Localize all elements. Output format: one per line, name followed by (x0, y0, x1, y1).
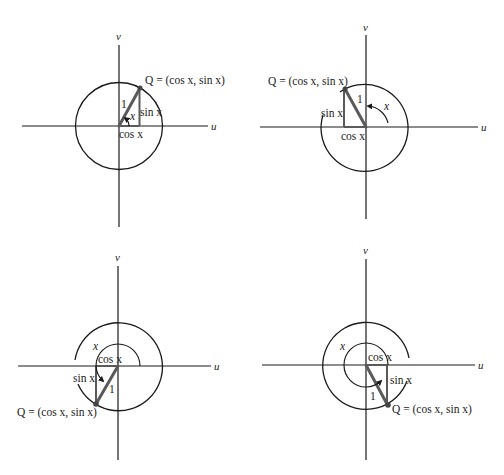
point-q (343, 87, 348, 92)
cos-label: cos x (98, 353, 122, 365)
point-q-label: Q = (cos x, sin x) (268, 75, 348, 88)
u-axis-label: u (214, 360, 220, 372)
point-q-label: Q = (cos x, sin x) (17, 406, 97, 419)
sin-label: sin x (390, 374, 412, 386)
sin-label: sin x (73, 372, 95, 384)
v-axis-label: v (363, 244, 368, 256)
sin-label: sin x (140, 106, 162, 118)
sin-label: sin x (321, 107, 343, 119)
v-axis-label: v (363, 21, 368, 33)
angle-arc-icon (125, 118, 129, 126)
angle-label: x (339, 340, 346, 352)
radius-label: 1 (357, 93, 363, 105)
point-q-label: Q = (cos x, sin x) (145, 74, 225, 87)
panel-quadrant-2: u v x 1 sin x cos x Q = (cos x, sin x) (260, 21, 487, 219)
u-axis-label: u (478, 359, 484, 371)
cos-label: cos x (368, 351, 392, 363)
panel-quadrant-3: u v x 1 sin x cos x Q = (cos x, sin x) (17, 251, 220, 460)
panel-quadrant-1: u v x 1 sin x cos x Q = (cos x, sin x) (22, 30, 225, 227)
panel-quadrant-4: u v x 1 sin x cos x Q = (cos x, sin x) (262, 244, 484, 460)
v-axis-label: v (116, 30, 121, 42)
angle-label: x (383, 100, 390, 112)
radius-label: 1 (370, 390, 376, 402)
point-q (385, 402, 391, 408)
radius-hypotenuse (345, 89, 366, 127)
angle-label: x (92, 340, 99, 352)
point-q (138, 86, 143, 91)
radius-label: 1 (121, 98, 127, 110)
unit-circle-figure: u v x 1 sin x cos x Q = (cos x, sin x) u… (0, 0, 504, 475)
angle-label: x (129, 110, 136, 122)
cos-label: cos x (341, 130, 365, 142)
u-axis-label: u (211, 120, 217, 132)
cos-label: cos x (119, 128, 143, 140)
u-axis-label: u (481, 121, 487, 133)
radius-label: 1 (109, 383, 115, 395)
point-q-label: Q = (cos x, sin x) (392, 403, 472, 416)
v-axis-label: v (115, 251, 120, 263)
